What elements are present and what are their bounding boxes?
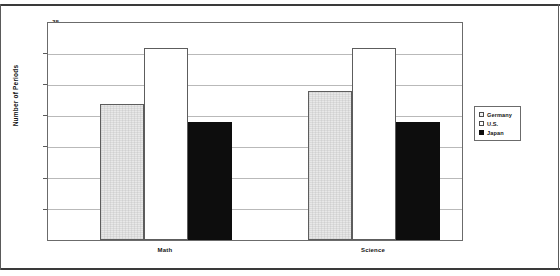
bar-science-us — [352, 48, 396, 240]
legend-item-japan: Japan — [479, 128, 516, 137]
bar-science-japan — [396, 122, 440, 240]
chart-figure: Number of Periods 35 30 25 20 15 10 5 0 — [0, 0, 560, 276]
plot-area — [47, 22, 463, 241]
legend-swatch-japan-icon — [479, 130, 484, 135]
bar-math-japan — [188, 122, 232, 240]
gridline-30 — [48, 54, 462, 55]
legend-label-germany: Germany — [487, 112, 512, 118]
bar-math-germany — [100, 104, 144, 240]
x-tick-label-math: Math — [135, 247, 195, 253]
legend-item-us: U.S. — [479, 119, 516, 128]
legend-item-germany: Germany — [479, 110, 516, 119]
chart-legend: Germany U.S. Japan — [474, 106, 521, 141]
y-axis-title: Number of Periods — [12, 51, 19, 141]
legend-label-japan: Japan — [487, 130, 504, 136]
legend-swatch-us-icon — [479, 121, 484, 126]
page-rule-left — [0, 4, 1, 270]
bar-math-us — [144, 48, 188, 240]
page-rule-bottom — [0, 268, 560, 270]
legend-swatch-germany-icon — [479, 112, 484, 117]
page-rule-right — [558, 4, 559, 270]
page-rule-top — [0, 4, 560, 6]
x-tick-label-science: Science — [343, 247, 403, 253]
gridline-25 — [48, 85, 462, 86]
bar-science-germany — [308, 91, 352, 240]
legend-label-us: U.S. — [487, 121, 498, 127]
